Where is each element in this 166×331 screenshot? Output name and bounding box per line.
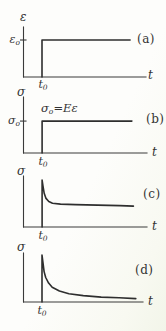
panel-c-plot (24, 176, 148, 227)
panel-d-plot (24, 253, 144, 302)
annotation-base: σ (41, 101, 49, 115)
panel-a-y-tick-label: εo (2, 34, 20, 45)
panel-c-y-axis-label: σ (17, 165, 25, 177)
x-tick-sub: 0 (43, 234, 48, 243)
panel-c-tag: (c) (143, 188, 161, 200)
panel-b-tag: (b) (146, 113, 165, 125)
panel-b-y-tick-label: σo (2, 115, 20, 126)
panel-b-x-axis-label: t (152, 146, 157, 158)
panel-d-tag: (d) (135, 264, 154, 276)
panel-a-tag: (a) (137, 33, 155, 45)
panel-c-x-axis-label: t (152, 220, 157, 232)
panel-a-plot (21, 27, 147, 77)
panel-c-t0-label: t0 (34, 230, 52, 241)
panel-d-x-axis-label: t (148, 295, 153, 307)
y-tick-sub: o (15, 119, 20, 128)
panel-b-t0-label: t0 (34, 156, 52, 167)
panel-d-t0-label: t0 (33, 305, 51, 316)
figure-stress-relaxation: ε εo t t0 (a) σ σo σo=Eε t t0 (b) σ t t0… (0, 0, 166, 331)
panel-b-y-axis-label: σ (17, 86, 25, 98)
panel-b-annotation-sigma-equals-E-epsilon: σo=Eε (41, 103, 78, 115)
x-tick-sub: 0 (43, 83, 48, 92)
panel-b-plot (21, 97, 148, 153)
panel-a-y-axis-label: ε (20, 11, 26, 23)
panel-d-y-axis-label: σ (17, 241, 25, 253)
x-tick-sub: 0 (42, 309, 47, 318)
annotation-rest: =Eε (53, 101, 77, 115)
panel-a-x-axis-label: t (148, 69, 153, 81)
panel-a-t0-label: t0 (34, 79, 52, 90)
x-tick-sub: 0 (43, 160, 48, 169)
y-tick-sub: o (15, 38, 20, 47)
